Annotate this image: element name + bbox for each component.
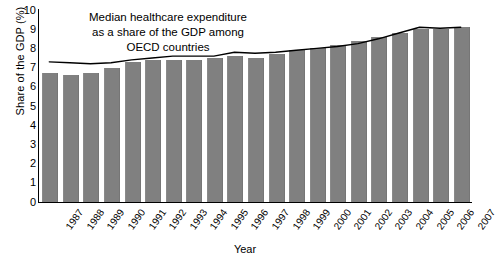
y-tick-label: 10 [18,5,36,16]
x-tick-label: 1995 [228,207,250,232]
y-tick-label: 4 [18,120,36,131]
y-tick-label: 9 [18,24,36,35]
x-tick-label: 1999 [311,207,333,232]
y-tick-label: 1 [18,177,36,188]
x-tick-label: 2001 [352,207,374,232]
x-tick-label: 1992 [167,207,189,232]
y-axis-ticks: 109876543210 [14,0,36,260]
y-tick-label: 6 [18,81,36,92]
x-tick-label: 1988 [84,207,106,232]
y-tick-label: 0 [18,197,36,208]
x-tick-label: 2006 [455,207,477,232]
x-tick-label: 1989 [105,207,127,232]
x-tick-label: 1997 [269,207,291,232]
y-tick-label: 3 [18,139,36,150]
x-tick-label: 2002 [372,207,394,232]
annotation-line-3: OECD countries [48,40,288,55]
annotation-line-1: Median healthcare expenditure [48,10,288,25]
x-tick-label: 2000 [331,207,353,232]
x-tick-label: 1991 [146,207,168,232]
y-tick-label: 8 [18,43,36,54]
y-tick-label: 2 [18,158,36,169]
x-tick-label: 1987 [64,207,86,232]
x-tick-label: 2003 [393,207,415,232]
x-tick-label: 1998 [290,207,312,232]
y-tick-label: 5 [18,101,36,112]
x-tick-label: 2004 [413,207,435,232]
x-tick-label: 1990 [125,207,147,232]
x-tick-label: 1996 [249,207,271,232]
x-tick-label: 1993 [187,207,209,232]
x-axis-label: Year [0,243,490,255]
x-tick-label: 2005 [434,207,456,232]
annotation-line-2: as a share of the GDP among [48,25,288,40]
chart-annotation: Median healthcare expenditure as a share… [48,10,288,55]
x-tick-label: 1994 [208,207,230,232]
y-tick-label: 7 [18,62,36,73]
x-axis-line [38,202,472,203]
x-tick-label: 2007 [475,207,497,232]
